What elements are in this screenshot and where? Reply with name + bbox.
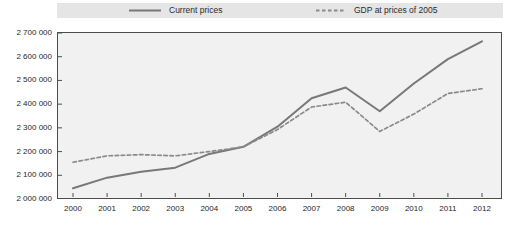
x-axis-tick-label: 2007 <box>295 204 329 214</box>
x-axis-tick-label: 2008 <box>329 204 363 214</box>
x-axis-labels: 2000200120022003200420052006200720082009… <box>0 0 509 227</box>
x-axis-tick-label: 2000 <box>56 204 90 214</box>
x-axis-tick-label: 2001 <box>90 204 124 214</box>
x-axis-tick-label: 2011 <box>431 204 465 214</box>
x-axis-tick-label: 2003 <box>158 204 192 214</box>
x-axis-tick-label: 2009 <box>363 204 397 214</box>
gdp-line-chart: Current prices GDP at prices of 2005 2 7… <box>0 0 509 227</box>
x-axis-tick-label: 2002 <box>124 204 158 214</box>
x-axis-tick-label: 2005 <box>226 204 260 214</box>
x-axis-tick-label: 2010 <box>397 204 431 214</box>
x-axis-tick-label: 2004 <box>192 204 226 214</box>
x-axis-tick-label: 2012 <box>465 204 499 214</box>
x-axis-tick-label: 2006 <box>261 204 295 214</box>
